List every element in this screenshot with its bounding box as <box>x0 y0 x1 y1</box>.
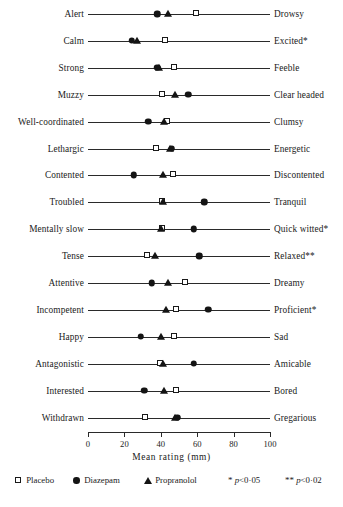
marker-placebo <box>153 145 159 151</box>
marker-diazepam <box>205 306 212 313</box>
marker-propranolol <box>159 198 167 205</box>
marker-diazepam <box>138 333 145 340</box>
marker-placebo <box>162 37 168 43</box>
marker-propranolol <box>162 306 170 313</box>
row-scale-line <box>88 337 270 338</box>
row-label-left: Happy <box>0 328 84 346</box>
row-label-left: Alert <box>0 5 84 23</box>
marker-placebo <box>173 306 179 312</box>
chart-row: HappySad <box>0 328 343 346</box>
marker-propranolol <box>164 279 172 286</box>
marker-placebo <box>170 171 176 177</box>
row-label-right: Discontented <box>274 166 343 184</box>
marker-propranolol <box>164 10 172 17</box>
pvalue-rest-1: <0·05 <box>239 475 260 485</box>
row-label-left: Antagonistic <box>0 355 84 373</box>
marker-diazepam <box>130 172 137 179</box>
row-label-left: Withdrawn <box>0 409 84 427</box>
row-label-left: Incompetent <box>0 301 84 319</box>
marker-placebo <box>182 279 188 285</box>
marker-diazepam <box>128 37 135 44</box>
row-label-right: Dreamy <box>274 274 343 292</box>
row-label-left: Interested <box>0 382 84 400</box>
marker-placebo <box>142 414 148 420</box>
row-scale-line <box>88 283 270 284</box>
row-label-right: Relaxed** <box>274 247 343 265</box>
chart-row: AntagonisticAmicable <box>0 355 343 373</box>
row-label-left: Lethargic <box>0 140 84 158</box>
marker-placebo <box>173 387 179 393</box>
marker-propranolol <box>151 252 159 259</box>
row-scale-line <box>88 68 270 69</box>
axis-tick-label: 40 <box>146 439 176 450</box>
chart-legend: Placebo Diazepam Propranolol * p<0·05 **… <box>0 474 343 494</box>
significance-star-double: ** <box>285 475 294 485</box>
row-label-right: Tranquil <box>274 193 343 211</box>
marker-placebo <box>159 91 165 97</box>
chart-row: CalmExcited* <box>0 32 343 50</box>
marker-diazepam <box>154 64 161 71</box>
row-scale-line <box>88 149 270 150</box>
open-square-icon <box>14 475 23 484</box>
marker-propranolol <box>157 333 165 340</box>
legend-item-significance-1: * p<0·05 <box>228 474 260 486</box>
marker-propranolol <box>160 386 168 393</box>
chart-row: MuzzyClear headed <box>0 86 343 104</box>
significance-star-single: * <box>228 475 233 485</box>
axis-tick-label: 0 <box>73 439 103 450</box>
chart-row: Well-coordinatedClumsy <box>0 113 343 131</box>
row-label-left: Mentally slow <box>0 220 84 238</box>
marker-propranolol <box>157 225 165 232</box>
legend-label-placebo: Placebo <box>26 475 54 485</box>
chart-row: WithdrawnGregarious <box>0 409 343 427</box>
marker-propranolol <box>160 117 168 124</box>
marker-diazepam <box>148 279 155 286</box>
row-label-left: Calm <box>0 32 84 50</box>
marker-propranolol <box>159 359 167 366</box>
marker-diazepam <box>174 414 181 421</box>
marker-placebo <box>171 333 177 339</box>
row-scale-line <box>88 14 270 15</box>
marker-diazepam <box>168 145 175 152</box>
chart-row: StrongFeeble <box>0 59 343 77</box>
mean-rating-chart: AlertDrowsyCalmExcited*StrongFeebleMuzzy… <box>0 0 343 507</box>
legend-item-diazepam: Diazepam <box>72 474 120 486</box>
axis-tick <box>124 432 125 437</box>
marker-diazepam <box>141 387 148 394</box>
row-scale-line <box>88 175 270 176</box>
chart-row: TenseRelaxed** <box>0 247 343 265</box>
chart-row: IncompetentProficient* <box>0 301 343 319</box>
axis-tick-label: 100 <box>255 439 285 450</box>
filled-circle-icon <box>72 475 81 484</box>
marker-diazepam <box>201 199 208 206</box>
pvalue-rest-2: <0·02 <box>301 475 322 485</box>
axis-tick-label: 60 <box>182 439 212 450</box>
row-label-right: Amicable <box>274 355 343 373</box>
row-label-right: Clear headed <box>274 86 343 104</box>
legend-item-propranolol: Propranolol <box>143 474 197 486</box>
row-label-left: Well-coordinated <box>0 113 84 131</box>
chart-row: Mentally slowQuick witted* <box>0 220 343 238</box>
marker-propranolol <box>159 171 167 178</box>
row-label-right: Gregarious <box>274 409 343 427</box>
row-label-left: Strong <box>0 59 84 77</box>
marker-diazepam <box>185 91 192 98</box>
row-scale-line <box>88 229 270 230</box>
axis-tick <box>270 432 271 437</box>
marker-placebo <box>171 64 177 70</box>
marker-diazepam <box>190 226 197 233</box>
row-label-right: Feeble <box>274 59 343 77</box>
row-label-left: Troubled <box>0 193 84 211</box>
chart-row: TroubledTranquil <box>0 193 343 211</box>
row-scale-line <box>88 364 270 365</box>
row-label-right: Bored <box>274 382 343 400</box>
marker-propranolol <box>171 90 179 97</box>
marker-diazepam <box>154 10 161 17</box>
row-label-right: Drowsy <box>274 5 343 23</box>
axis-line <box>88 432 270 433</box>
row-label-right: Quick witted* <box>274 220 343 238</box>
axis-tick <box>88 432 89 437</box>
row-label-right: Sad <box>274 328 343 346</box>
axis-tick <box>161 432 162 437</box>
x-axis-title: Mean rating (mm) <box>0 452 343 462</box>
